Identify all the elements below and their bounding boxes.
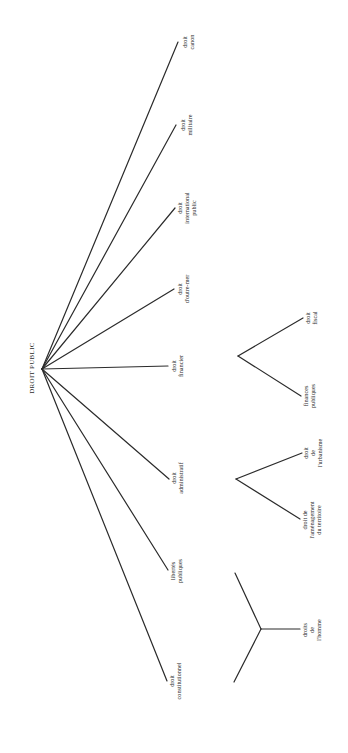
label-line: militaire [186, 102, 193, 148]
label-line: public [190, 181, 197, 235]
label-line: de [308, 604, 315, 656]
edge-outre-mer [42, 289, 174, 369]
label-line: d'outre-mer [183, 264, 190, 314]
label-line: droit [181, 19, 188, 65]
edge-international [42, 208, 175, 369]
label-line: finances [302, 372, 309, 420]
label-line: financier [177, 343, 184, 389]
label-line: constitutionnel [175, 651, 182, 711]
edge-urbanisme [236, 453, 302, 479]
edge-constitutionnel [42, 369, 167, 681]
label-line: droit [176, 181, 183, 235]
edge-administratif [42, 369, 169, 479]
edge-libertes [42, 369, 168, 570]
edge-financier [42, 366, 168, 369]
label-line: administratif [177, 451, 184, 505]
label-line: l'aménagement [308, 487, 315, 553]
label-line: droit [176, 264, 183, 314]
label-line: fiscal [311, 296, 318, 340]
label-line: droit [302, 425, 309, 481]
label-finances-publiques: finances publiques [302, 372, 316, 420]
edge-fiscal [238, 318, 303, 356]
label-line: international [183, 181, 190, 235]
label-droit-urbanisme: droit de l'urbanisme [302, 425, 323, 481]
edge-finances-publiques [238, 356, 301, 396]
label-line: droit [170, 451, 177, 505]
label-droit-militaire: droit militaire [179, 102, 193, 148]
label-line: droits [301, 604, 308, 656]
label-line: publiques [176, 548, 183, 594]
label-line: canon [188, 19, 195, 65]
label-droit-financier: droit financier [170, 343, 184, 389]
label-droit-outre-mer: droit d'outre-mer [176, 264, 190, 314]
label-droit-fiscal: droit fiscal [304, 296, 318, 340]
label-droit-constitutionnel: droit constitutionnel [168, 651, 182, 711]
label-line: l'urbanisme [316, 425, 323, 481]
label-line: droit de [301, 487, 308, 553]
label-line: du territoire [315, 487, 322, 553]
label-droit-canon: droit canon [181, 19, 195, 65]
label-droit-amenagement-territoire: droit de l'aménagement du territoire [301, 487, 322, 553]
label-libertes-publiques: libertés publiques [169, 548, 183, 594]
root-label-text: DROIT PUBLIC [29, 333, 36, 403]
label-droit-administratif: droit administratif [170, 451, 184, 505]
edge-libertes-lower [234, 629, 261, 682]
label-line: de [309, 425, 316, 481]
edge-canon [42, 42, 178, 369]
label-line: l'homme [315, 604, 322, 656]
label-line: droit [179, 102, 186, 148]
root-label: DROIT PUBLIC [29, 333, 36, 403]
edge-militaire [42, 125, 176, 369]
label-line: libertés [169, 548, 176, 594]
label-droits-de-l-homme: droits de l'homme [301, 604, 322, 656]
label-droit-international-public: droit international public [176, 181, 197, 235]
label-line: publiques [309, 372, 316, 420]
label-line: droit [304, 296, 311, 340]
label-line: droit [170, 343, 177, 389]
label-line: droit [168, 651, 175, 711]
edge-libertes-upper [235, 573, 261, 629]
edge-amenagement [236, 479, 300, 519]
